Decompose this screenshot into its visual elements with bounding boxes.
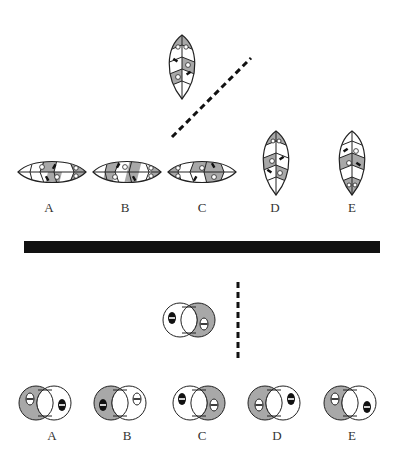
- option-circles-b[interactable]: [94, 386, 146, 420]
- bottom-option-label-c: C: [198, 428, 207, 444]
- top-option-label-a: A: [44, 200, 53, 216]
- top-option-label-d: D: [270, 200, 279, 216]
- option-circles-d[interactable]: [248, 386, 300, 420]
- diagram-canvas: [0, 0, 399, 470]
- bottom-option-label-b: B: [123, 428, 132, 444]
- option-circles-e[interactable]: [324, 386, 376, 420]
- option-leaf-d[interactable]: [256, 129, 296, 199]
- question-circles: [163, 303, 215, 337]
- option-leaf-a[interactable]: [16, 156, 88, 188]
- bottom-option-label-a: A: [47, 428, 56, 444]
- option-leaf-b[interactable]: [91, 156, 163, 188]
- option-leaf-e[interactable]: [332, 129, 372, 199]
- question-leaf: [162, 33, 202, 103]
- option-circles-a[interactable]: [19, 386, 71, 420]
- bottom-option-label-d: D: [272, 428, 281, 444]
- option-circles-c[interactable]: [173, 386, 225, 420]
- top-option-label-b: B: [121, 200, 130, 216]
- top-option-label-c: C: [198, 200, 207, 216]
- bottom-option-label-e: E: [348, 428, 356, 444]
- option-leaf-c[interactable]: [166, 156, 238, 188]
- section-divider: [24, 241, 380, 253]
- top-option-label-e: E: [348, 200, 356, 216]
